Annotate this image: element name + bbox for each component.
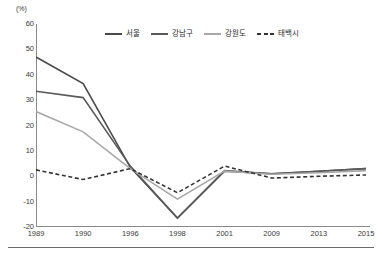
x-tick-label: 1990 (75, 229, 92, 238)
legend-label: 강남구 (172, 29, 193, 38)
y-tick-label: 40 (12, 71, 34, 79)
legend-item[interactable]: 강남구 (151, 29, 193, 38)
y-tick-label: 20 (12, 122, 34, 130)
legend-label: 태백시 (278, 29, 299, 38)
x-tick-label: 1996 (122, 229, 139, 238)
y-tick-label: 50 (12, 45, 34, 53)
axes (36, 24, 370, 227)
y-tick-label: 0 (12, 172, 34, 180)
legend-item[interactable]: 태백시 (257, 29, 299, 38)
plot-area (36, 24, 370, 227)
series-line (36, 112, 366, 200)
legend-line-icon (151, 33, 168, 35)
legend-label: 서울 (126, 29, 140, 38)
series-line (36, 166, 366, 193)
legend-item[interactable]: 서울 (105, 29, 140, 38)
legend-line-icon (105, 33, 122, 35)
y-axis-tick-labels: 6050403020100-10-20 (8, 0, 34, 258)
legend-line-icon (257, 33, 274, 35)
series-lines (36, 57, 366, 218)
x-tick-label: 2009 (263, 229, 280, 238)
legend-item[interactable]: 강원도 (204, 29, 246, 38)
y-tick-label: 30 (12, 96, 34, 104)
x-tick-label: 2015 (358, 229, 375, 238)
y-tick-label: -10 (12, 198, 34, 206)
x-tick-label: 1998 (169, 229, 186, 238)
legend-line-icon (204, 33, 221, 35)
chart-figure: (%) 6050403020100-10-20 1989199019961998… (0, 0, 382, 258)
y-tick-label: 60 (12, 20, 34, 28)
series-line (36, 91, 366, 218)
y-tick-label: 10 (12, 147, 34, 155)
bottom-divider (8, 247, 374, 248)
x-axis-tick-labels: 19891990199619982001200920132015 (36, 229, 370, 243)
chart-svg (36, 24, 370, 227)
chart-legend: 서울강남구강원도태백시 (105, 29, 299, 38)
legend-label: 강원도 (225, 29, 246, 38)
x-tick-label: 2013 (311, 229, 328, 238)
x-tick-label: 2001 (216, 229, 233, 238)
x-tick-label: 1989 (28, 229, 45, 238)
